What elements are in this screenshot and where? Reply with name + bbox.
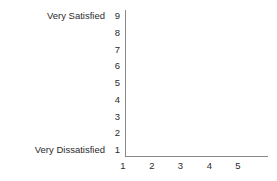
y-tick-label-5: 5 xyxy=(80,78,120,88)
y-tick-label-2: 2 xyxy=(80,128,120,138)
y-tick-label-7: 7 xyxy=(80,45,120,55)
y-axis-low-anchor-label: Very Dissatisfied xyxy=(35,145,105,155)
x-axis-line xyxy=(125,156,268,157)
y-axis-high-anchor-label: Very Satisfied xyxy=(47,11,105,21)
y-tick-label-8: 8 xyxy=(80,28,120,38)
y-tick-label-6: 6 xyxy=(80,61,120,71)
chart-screenshot: 9 8 7 6 5 4 3 2 1 1 2 3 4 5 Very Satisfi… xyxy=(0,0,277,181)
x-tick-label-4: 4 xyxy=(200,161,218,171)
x-tick-label-3: 3 xyxy=(172,161,190,171)
y-tick-label-3: 3 xyxy=(80,112,120,122)
x-tick-label-1: 1 xyxy=(114,161,132,171)
plot-area xyxy=(126,10,268,156)
x-tick-label-2: 2 xyxy=(143,161,161,171)
y-tick-label-4: 4 xyxy=(80,95,120,105)
x-tick-label-5: 5 xyxy=(229,161,247,171)
